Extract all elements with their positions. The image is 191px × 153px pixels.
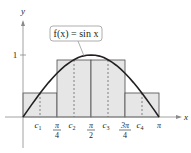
- midpoint-label-c3: c3: [103, 120, 110, 131]
- midpoint-label-c2: c2: [69, 120, 76, 131]
- riemann-sum-diagram: f(x) = sin x y x 1 c1 c2 c3 c4 π 4 π 2 3…: [0, 0, 191, 153]
- x-tick-3pi-over-4-den: 4: [123, 131, 127, 140]
- x-tick-3pi-over-4-num: 3π: [120, 121, 130, 130]
- x-tick-pi-over-2-num: π: [89, 121, 94, 130]
- midpoint-label-c4: c4: [137, 120, 144, 131]
- function-label: f(x) = sin x: [50, 26, 102, 56]
- x-tick-pi-over-4-den: 4: [55, 131, 59, 140]
- function-label-text: f(x) = sin x: [54, 28, 99, 40]
- function-label-pointer: [78, 41, 84, 56]
- midpoint-label-c1: c1: [35, 120, 42, 131]
- x-axis-arrow-icon: [176, 115, 182, 119]
- y-axis-label: y: [20, 6, 25, 16]
- y-tick-label: 1: [13, 50, 18, 60]
- x-tick-pi-over-4-num: π: [55, 121, 60, 130]
- x-tick-pi-over-2-den: 2: [89, 131, 93, 140]
- x-axis-label: x: [183, 112, 188, 122]
- x-tick-pi: π: [157, 121, 162, 130]
- y-axis-arrow-icon: [21, 20, 25, 26]
